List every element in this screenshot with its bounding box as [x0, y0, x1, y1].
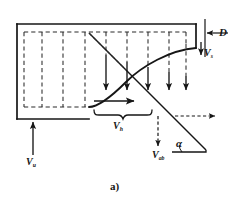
sedimentation-basin-diagram: D Vs Vh Vab α Vu a): [0, 0, 237, 201]
label-horizontal-velocity: Vh: [113, 121, 123, 131]
label-absolute-velocity-subscript: ab: [159, 155, 165, 161]
label-settling-velocity: Vs: [204, 48, 213, 58]
angle-triangle: [172, 150, 206, 152]
label-horizontal-velocity-subscript: h: [120, 126, 123, 132]
label-upflow-velocity-symbol: V: [26, 156, 33, 167]
label-upflow-velocity: Vu: [26, 157, 36, 167]
settling-velocity-arrows: [106, 55, 186, 90]
label-angle-alpha: α: [176, 138, 182, 149]
label-horizontal-velocity-symbol: V: [113, 120, 120, 131]
label-absolute-velocity-symbol: V: [152, 149, 159, 160]
label-absolute-velocity: Vab: [152, 150, 164, 160]
label-upflow-velocity-subscript: u: [33, 162, 36, 168]
diagram-canvas: [0, 0, 237, 201]
particle-trajectory-curve: [89, 48, 196, 107]
label-depth: D: [219, 27, 227, 38]
horizontal-velocity-brace: [94, 110, 152, 119]
dashed-compartment-dividers-left: [42, 32, 85, 107]
figure-caption: a): [110, 180, 119, 192]
label-settling-velocity-subscript: s: [211, 53, 213, 59]
label-settling-velocity-symbol: V: [204, 47, 211, 58]
inner-dashed-chamber: [24, 32, 186, 107]
